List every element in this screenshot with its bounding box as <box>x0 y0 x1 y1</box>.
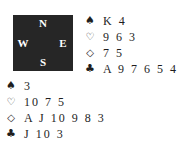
west-diamonds-cards: A J 10 9 8 3 <box>24 111 106 125</box>
north-hand: ♠ K 4 ♡ 9 6 3 ◇ 7 5 ♣ A 9 7 6 5 4 <box>85 13 178 77</box>
north-hearts-cards: 9 6 3 <box>103 30 137 44</box>
north-spades-row: ♠ K 4 <box>85 13 178 29</box>
west-clubs-cards: J 10 3 <box>24 127 65 141</box>
diamond-icon: ◇ <box>85 46 95 60</box>
west-clubs-row: ♣ J 10 3 <box>6 126 106 142</box>
west-spades-cards: 3 <box>24 79 32 93</box>
spade-icon: ♠ <box>85 14 95 28</box>
diamond-icon: ◇ <box>6 111 16 125</box>
heart-icon: ♡ <box>85 30 95 44</box>
north-clubs-row: ♣ A 9 7 6 5 4 <box>85 61 178 77</box>
north-clubs-cards: A 9 7 6 5 4 <box>103 62 178 76</box>
west-hearts-row: ♡ 10 7 5 <box>6 94 106 110</box>
north-diamonds-row: ◇ 7 5 <box>85 45 178 61</box>
compass-south-label: S <box>37 57 49 68</box>
club-icon: ♣ <box>6 127 16 141</box>
north-hearts-row: ♡ 9 6 3 <box>85 29 178 45</box>
north-diamonds-cards: 7 5 <box>103 46 124 60</box>
west-hand: ♠ 3 ♡ 10 7 5 ◇ A J 10 9 8 3 ♣ J 10 3 <box>6 78 106 142</box>
compass-box: N W E S <box>13 15 73 71</box>
west-spades-row: ♠ 3 <box>6 78 106 94</box>
spade-icon: ♠ <box>6 79 16 93</box>
north-spades-cards: K 4 <box>103 14 127 28</box>
compass-east-label: E <box>57 38 69 49</box>
west-hearts-cards: 10 7 5 <box>24 95 66 109</box>
heart-icon: ♡ <box>6 95 16 109</box>
compass-west-label: W <box>17 38 29 49</box>
compass-north-label: N <box>37 18 49 29</box>
club-icon: ♣ <box>85 62 95 76</box>
west-diamonds-row: ◇ A J 10 9 8 3 <box>6 110 106 126</box>
